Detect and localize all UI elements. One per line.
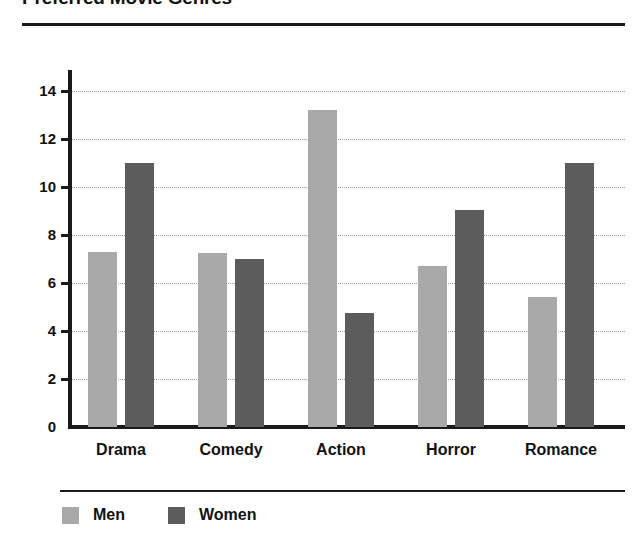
legend-item-men[interactable]: Men (62, 506, 125, 524)
x-axis-label-drama: Drama (61, 441, 181, 459)
y-axis-tick (61, 90, 72, 93)
y-axis-tick (61, 330, 72, 333)
y-axis-tick-label: 8 (48, 227, 56, 242)
gridline (72, 91, 625, 92)
bar-romance-men (528, 297, 557, 427)
bar-romance-women (565, 163, 594, 427)
x-axis-label-romance: Romance (501, 441, 621, 459)
bar-drama-women (125, 163, 154, 427)
plot-area (72, 72, 625, 427)
y-axis-tick-label: 0 (48, 419, 56, 434)
bar-comedy-men (198, 253, 227, 427)
gridline (72, 235, 625, 236)
gridline (72, 139, 625, 140)
bar-comedy-women (235, 259, 264, 427)
legend-swatch-men (62, 507, 79, 524)
y-axis-tick-label: 12 (39, 131, 56, 146)
legend-label-women: Women (199, 506, 256, 524)
gridline (72, 187, 625, 188)
x-axis-label-action: Action (281, 441, 401, 459)
y-axis-tick (61, 138, 72, 141)
gridline (72, 283, 625, 284)
legend-label-men: Men (93, 506, 125, 524)
y-axis-tick-label: 10 (39, 179, 56, 194)
y-axis-tick-labels: 02468101214 (0, 0, 56, 553)
legend-divider (60, 490, 625, 492)
x-axis-label-comedy: Comedy (171, 441, 291, 459)
bar-action-women (345, 313, 374, 427)
legend-item-women[interactable]: Women (168, 506, 256, 524)
y-axis-tick (61, 186, 72, 189)
y-axis-tick (61, 282, 72, 285)
y-axis-tick-label: 4 (48, 323, 56, 338)
y-axis-tick (61, 378, 72, 381)
y-axis-tick-label: 6 (48, 275, 56, 290)
y-axis-tick-label: 14 (39, 83, 56, 98)
bar-horror-men (418, 266, 447, 427)
x-axis-label-horror: Horror (391, 441, 511, 459)
bar-drama-men (88, 252, 117, 427)
legend-swatch-women (168, 507, 185, 524)
bar-horror-women (455, 210, 484, 427)
title-divider (22, 23, 625, 26)
bar-action-men (308, 110, 337, 427)
y-axis-tick-label: 2 (48, 371, 56, 386)
y-axis-tick (61, 234, 72, 237)
